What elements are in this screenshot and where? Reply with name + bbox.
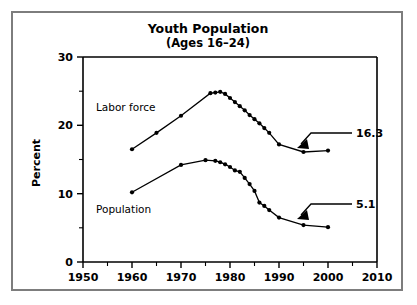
chart-figure: Youth Population (Ages 16–24) Percent 0 …	[0, 0, 417, 305]
data-point	[248, 113, 252, 117]
data-point	[223, 162, 227, 166]
x-tick-2010: 2010	[362, 271, 393, 284]
data-point	[301, 150, 305, 154]
x-tick-1950: 1950	[68, 271, 99, 284]
data-point	[326, 149, 330, 153]
y-axis-ticks	[77, 57, 83, 262]
data-point	[238, 170, 242, 174]
data-point	[218, 90, 222, 94]
data-point	[262, 204, 266, 208]
x-tick-1970: 1970	[166, 271, 197, 284]
annotation-population: 5.1	[297, 198, 376, 220]
series-labor-force	[130, 90, 330, 154]
y-tick-20: 20	[58, 119, 74, 132]
data-point	[218, 160, 222, 164]
data-point	[238, 104, 242, 108]
data-point	[179, 163, 183, 167]
x-tick-1990: 1990	[264, 271, 295, 284]
y-tick-labels: 0 10 20 30	[58, 51, 74, 269]
series-label-population: Population	[96, 203, 151, 215]
y-tick-30: 30	[58, 51, 74, 64]
annotation-population-value: 5.1	[356, 198, 376, 211]
data-point	[248, 182, 252, 186]
series-line	[132, 160, 328, 227]
y-tick-0: 0	[65, 256, 73, 269]
data-point	[213, 90, 217, 94]
data-point	[277, 142, 281, 146]
annotation-labor-force-value: 16.3	[356, 127, 383, 140]
chart-title: Youth Population	[147, 21, 269, 36]
data-point	[326, 225, 330, 229]
chart-subtitle: (Ages 16–24)	[166, 36, 250, 50]
series-line	[132, 92, 328, 152]
youth-population-chart: Youth Population (Ages 16–24) Percent 0 …	[0, 0, 417, 305]
data-point	[267, 208, 271, 212]
data-point	[154, 131, 158, 135]
series-label-labor-force: Labor force	[96, 101, 155, 113]
data-point	[257, 121, 261, 125]
data-point	[213, 159, 217, 163]
data-point	[262, 126, 266, 130]
axis-lines	[83, 57, 377, 262]
x-tick-2000: 2000	[313, 271, 344, 284]
y-axis-label: Percent	[30, 139, 43, 187]
data-point	[233, 100, 237, 104]
x-axis-ticks	[83, 262, 377, 268]
data-point	[301, 223, 305, 227]
data-point	[243, 176, 247, 180]
data-point	[252, 189, 256, 193]
y-tick-10: 10	[58, 188, 74, 201]
x-tick-1960: 1960	[117, 271, 148, 284]
data-point	[208, 91, 212, 95]
x-tick-labels: 1950 1960 1970 1980 1990 2000 2010	[68, 271, 393, 284]
data-point	[130, 190, 134, 194]
data-point	[223, 92, 227, 96]
data-point	[203, 158, 207, 162]
data-point	[257, 200, 261, 204]
data-series-layer	[130, 90, 330, 229]
data-point	[233, 168, 237, 172]
x-tick-1980: 1980	[215, 271, 246, 284]
data-point	[243, 108, 247, 112]
data-point	[267, 131, 271, 135]
data-point	[228, 165, 232, 169]
data-point	[252, 117, 256, 121]
annotation-labor-force: 16.3	[297, 127, 383, 149]
data-point	[277, 215, 281, 219]
data-point	[179, 114, 183, 118]
data-point	[228, 96, 232, 100]
data-point	[130, 147, 134, 151]
